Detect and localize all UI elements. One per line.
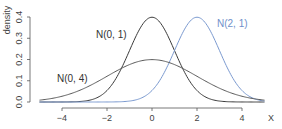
x-tick-label: 0 xyxy=(149,113,154,123)
curves xyxy=(40,17,265,102)
y-axis: 0.00.10.20.30.4density xyxy=(2,5,30,108)
x-tick-label: 2 xyxy=(194,113,199,123)
curve-label: N(2, 1) xyxy=(217,18,248,29)
x-tick-label: 4 xyxy=(239,113,244,123)
curve-label: N(0, 1) xyxy=(96,29,127,40)
y-tick-label: 0.3 xyxy=(14,32,24,45)
x-tick-label: −2 xyxy=(102,113,112,123)
x-axis: −4−2024X xyxy=(57,108,274,123)
y-axis-label: density xyxy=(2,5,12,34)
y-tick-label: 0.1 xyxy=(14,74,24,87)
density-chart: 0.00.10.20.30.4density −4−2024X N(0, 1)N… xyxy=(0,0,282,129)
x-tick-label: −4 xyxy=(57,113,67,123)
curve-labels: N(0, 1)N(2, 1)N(0, 4) xyxy=(57,18,248,84)
y-tick-label: 0.0 xyxy=(14,96,24,109)
y-tick-label: 0.2 xyxy=(14,53,24,66)
y-tick-label: 0.4 xyxy=(14,11,24,24)
x-axis-label: X xyxy=(268,113,274,123)
curve-label: N(0, 4) xyxy=(57,73,88,84)
